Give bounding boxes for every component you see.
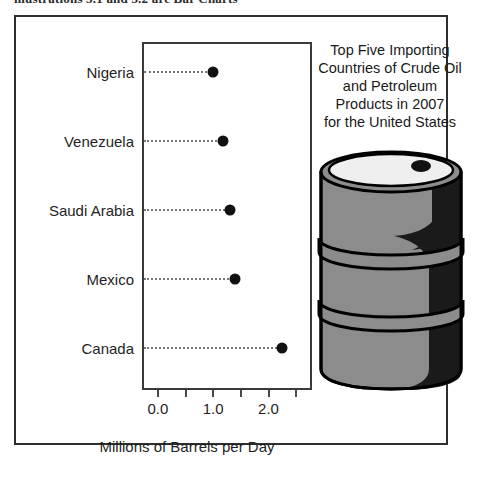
leader-line: [144, 140, 221, 144]
category-label-column: NigeriaVenezuelaSaudi ArabiaMexicoCanada: [16, 42, 134, 390]
chart-title-line: Countries of Crude Oil: [316, 59, 464, 77]
x-axis-tick: [157, 390, 159, 397]
chart-title-line: for the United States: [316, 113, 464, 131]
x-axis-tick: [268, 390, 270, 397]
leader-line: [144, 209, 228, 213]
plot-panel: [142, 42, 312, 390]
category-label: Mexico: [16, 270, 134, 287]
category-label: Nigeria: [16, 64, 134, 81]
plot-area: [144, 44, 310, 388]
category-label: Saudi Arabia: [16, 202, 134, 219]
x-axis: 0.01.02.0: [142, 390, 312, 391]
leader-line: [144, 278, 233, 282]
x-axis-tick: [212, 390, 214, 397]
oil-barrel-icon: [316, 148, 466, 393]
x-axis-tick: [240, 390, 242, 397]
data-point-marker[interactable]: [224, 205, 235, 216]
x-axis-tick: [185, 390, 187, 397]
category-label: Venezuela: [16, 133, 134, 150]
data-point-marker[interactable]: [208, 67, 219, 78]
leader-line: [144, 71, 211, 75]
data-point-marker[interactable]: [277, 342, 288, 353]
x-axis-tick: [295, 390, 297, 397]
x-axis-tick-label: 1.0: [203, 400, 224, 417]
chart-title-line: Top Five Importing: [316, 41, 464, 59]
chart-title-line: Products in 2007: [316, 95, 464, 113]
category-label: Canada: [16, 339, 134, 356]
chart-title: Top Five ImportingCountries of Crude Oil…: [316, 41, 464, 131]
leader-line: [144, 347, 280, 351]
chart-title-line: and Petroleum: [316, 77, 464, 95]
clipped-page-header: mustrations 5.1 and 5.2 are Bar Charts: [14, 0, 354, 5]
data-point-marker[interactable]: [218, 136, 229, 147]
x-axis-title: Millions of Barrels per Day: [56, 438, 318, 455]
figure-frame: NigeriaVenezuelaSaudi ArabiaMexicoCanada…: [14, 15, 448, 445]
x-axis-tick-label: 2.0: [258, 400, 279, 417]
x-axis-tick-label: 0.0: [147, 400, 168, 417]
data-point-marker[interactable]: [230, 273, 241, 284]
